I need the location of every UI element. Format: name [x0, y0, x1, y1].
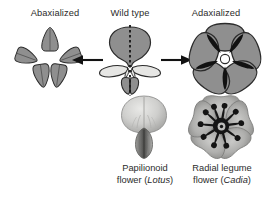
- abaxial-petal-lower-right: [48, 63, 67, 88]
- arrow-right: [160, 54, 192, 66]
- wildtype-wing-petal-left: [100, 66, 128, 77]
- caption-papilionoid-line1: Papilionoid: [122, 163, 168, 173]
- wildtype-keel-petal-right: [130, 78, 138, 95]
- caption-papilionoid-genus: Lotus: [147, 175, 170, 185]
- diagram-wild-type: [98, 22, 162, 96]
- label-adaxialized: Adaxialized: [168, 8, 264, 19]
- caption-radial-legume: Radial legume flower (Cadia): [180, 163, 264, 186]
- caption-radial-legume-line1: Radial legume: [192, 163, 251, 173]
- adaxial-flower-center: [220, 54, 229, 63]
- caption-papilionoid-prefix: flower (: [117, 175, 147, 185]
- lotus-keel-petal: [136, 128, 153, 159]
- cadia-flower-center: [213, 118, 229, 134]
- caption-papilionoid-suffix: ): [170, 175, 173, 185]
- caption-radial-legume-prefix: flower (: [193, 175, 223, 185]
- figure-canvas: Abaxialized Wild type Adaxialized: [0, 0, 264, 199]
- photo-cadia-flower: [188, 92, 254, 160]
- diagram-adaxialized: [189, 23, 261, 95]
- wildtype-wing-petal-right: [133, 66, 161, 77]
- caption-papilionoid: Papilionoid flower (Lotus): [104, 163, 186, 186]
- label-wild-type: Wild type: [88, 8, 172, 19]
- abaxial-petal-top: [42, 27, 59, 51]
- caption-radial-legume-suffix: ): [248, 175, 251, 185]
- wildtype-keel-petal-left: [121, 78, 129, 95]
- abaxial-petal-lower-left: [32, 63, 51, 88]
- caption-radial-legume-genus: Cadia: [224, 175, 248, 185]
- photo-lotus-flower: [116, 94, 172, 160]
